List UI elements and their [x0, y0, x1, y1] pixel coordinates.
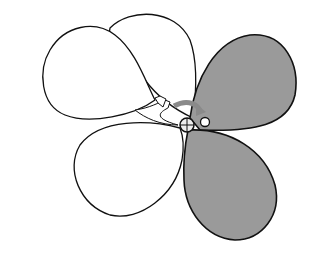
upper-right-balloon — [190, 35, 296, 131]
lower-left-balloon — [74, 123, 183, 216]
knot-loop — [201, 118, 210, 127]
balloon-diagram — [0, 0, 318, 253]
balloon-illustration — [0, 0, 318, 253]
lower-right-balloon — [184, 130, 277, 240]
